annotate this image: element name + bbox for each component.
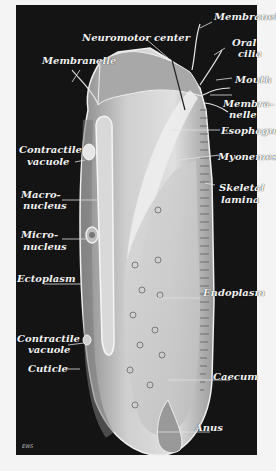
label-cuticle: Cuticle [28,364,68,374]
label-membranelle-right-2: nelle [229,110,257,120]
label-contractile-vacuole-bottom-1: Contractile [17,334,80,344]
label-contractile-vacuole-top-1: Contractile [19,145,82,155]
label-micronucleus-2: nucleus [23,242,67,252]
label-micronucleus-1: Micro- [21,230,58,240]
label-membranelle-left: Membranelle [42,56,116,66]
artist-signature: EWS [22,443,33,449]
label-contractile-vacuole-top-2: vacuole [27,157,69,167]
label-membranelle-top: Membranelle [214,12,276,22]
label-oral-cilia-2: cilia [238,49,262,59]
label-ectoplasm: Ectoplasm [17,274,75,284]
label-oral-cilia-1: Oral [232,38,256,48]
label-contractile-vacuole-bottom-2: vacuole [28,345,70,355]
label-esophagus: Esophagus [221,126,276,136]
label-skeletal-lamina-2: lamina [221,195,259,205]
contractile-vacuole-top [83,144,95,160]
label-anus: Anus [195,423,223,433]
micronucleus-core [89,232,95,238]
label-skeletal-lamina-1: Skeletal [219,183,265,193]
label-endoplasm: Endoplasm [203,288,265,298]
label-macronucleus-2: nucleus [23,201,67,211]
label-mouth: Mouth [235,75,272,85]
label-myonemes: Myonemes [218,152,276,162]
label-neuromotor-center: Neuromotor center [82,33,190,43]
contractile-vacuole-bottom [83,335,91,345]
label-membranelle-right-1: Membra- [223,99,274,109]
label-macronucleus-1: Macro- [21,190,61,200]
label-caecum: Caecum [213,372,258,382]
